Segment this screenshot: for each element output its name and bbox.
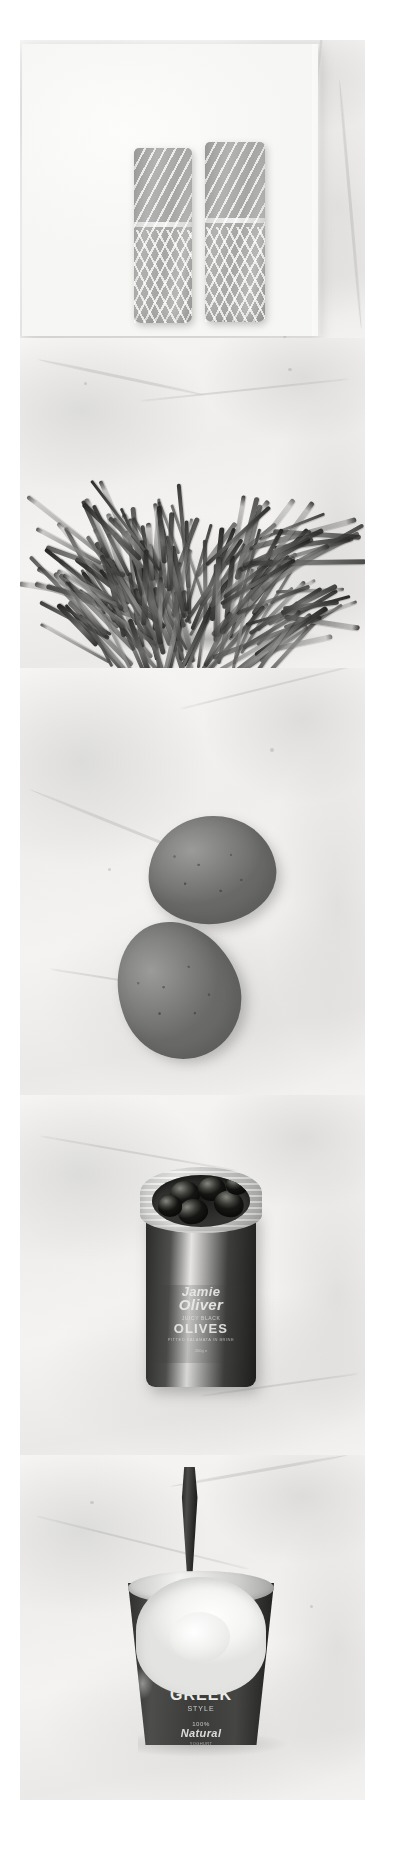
label-natural: Natural	[128, 1728, 274, 1739]
salmon-fillet-left	[134, 148, 192, 323]
yogurt-pot: GREEK STYLE 100% Natural YOGHURT	[128, 1555, 274, 1755]
fillet-seam	[205, 218, 265, 223]
photo-panel-olives: Jamie Oliver JUICY BLACK OLIVES PITTED K…	[20, 1095, 365, 1455]
marble-speck	[270, 748, 274, 752]
label-product: OLIVES	[146, 1322, 256, 1335]
olive-jar-label: Jamie Oliver JUICY BLACK OLIVES PITTED K…	[146, 1285, 256, 1363]
olive-jar: Jamie Oliver JUICY BLACK OLIVES PITTED K…	[140, 1167, 262, 1389]
photo-panel-salmon: Two salmon fillets on parchment paper	[20, 40, 365, 338]
olive	[226, 1175, 248, 1195]
marble-speck	[108, 868, 111, 871]
salmon-fillet-right	[205, 142, 265, 322]
jar-body: Jamie Oliver JUICY BLACK OLIVES PITTED K…	[146, 1211, 256, 1387]
photo-panel-eggs: Two speckled eggs on marble	[20, 668, 365, 1095]
fillet-grain-lower	[205, 227, 265, 322]
label-weight: 200g e	[146, 1349, 256, 1353]
photo-panel-yogurt: GREEK STYLE 100% Natural YOGHURT A pot o…	[20, 1455, 365, 1800]
photo-strip: Two salmon fillets on parchment paper /*…	[0, 0, 398, 1856]
green-bean-pile: /* beans generated below */	[56, 470, 334, 648]
marble-speck	[90, 1501, 94, 1504]
marble-speck	[288, 368, 292, 371]
label-style: STYLE	[128, 1705, 274, 1712]
photo-panel-green-beans: /* beans generated below */ A pile of fr…	[20, 338, 365, 668]
label-sub: PITTED KALAMATA IN BRINE	[146, 1338, 256, 1342]
fillet-seam	[134, 222, 192, 227]
label-yoghurt: YOGHURT	[128, 1742, 274, 1745]
jar-mouth	[152, 1175, 250, 1227]
olive	[158, 1195, 182, 1217]
marble-speck	[310, 1605, 313, 1608]
yogurt-surface	[136, 1577, 266, 1695]
label-brand-line-2: Oliver	[146, 1297, 256, 1312]
marble-speck	[84, 382, 87, 385]
yogurt-pot-label: GREEK STYLE 100% Natural YOGHURT	[128, 1687, 274, 1745]
yogurt-swirl	[170, 1612, 230, 1662]
fillet-grain-lower	[134, 230, 192, 323]
